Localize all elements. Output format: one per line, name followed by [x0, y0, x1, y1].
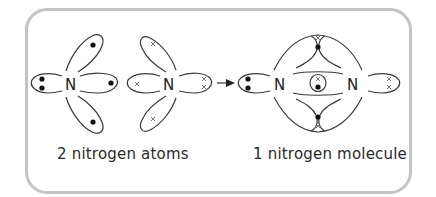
lone-pair-lobe-right	[368, 74, 400, 93]
electron-dot	[39, 76, 44, 81]
electron-cross	[151, 42, 155, 46]
electron-cross	[202, 85, 206, 89]
electron-dot	[108, 80, 113, 85]
orbital-lobe-right	[179, 73, 212, 93]
orbital-lobe-top	[66, 35, 103, 72]
electron-dot	[39, 85, 44, 90]
nitrogen-bonding-diagram: N N	[0, 0, 436, 197]
atom-symbol-n: N	[65, 76, 76, 94]
caption-product: 1 nitrogen molecule	[253, 145, 407, 163]
electron-dot	[245, 76, 250, 81]
electron-cross	[135, 82, 139, 86]
bond-orbital-outer-top	[274, 35, 362, 70]
electron-cross	[316, 36, 320, 40]
electron-dot	[315, 84, 320, 89]
electron-dot	[245, 85, 250, 90]
atom-symbol-n: N	[163, 76, 174, 94]
nitrogen-atom-crosses: N	[127, 37, 211, 132]
bond-orbital-middle-top	[293, 72, 343, 74]
orbital-lobe-left	[31, 74, 62, 93]
reaction-arrow-icon	[217, 79, 235, 87]
lone-pair-lobe-left	[238, 74, 270, 93]
electron-dot	[315, 114, 320, 119]
electron-cross	[151, 117, 155, 121]
bond-orbital-middle-bottom	[293, 93, 343, 95]
orbital-lobe-top	[140, 37, 176, 72]
atom-symbol-n: N	[274, 76, 285, 94]
nitrogen-molecule: N N	[238, 35, 399, 132]
orbital-lobe-left	[127, 74, 160, 93]
electron-dot	[315, 44, 320, 49]
electron-dot	[90, 42, 95, 47]
electron-cross	[316, 77, 320, 81]
electron-cross	[202, 77, 206, 81]
electron-cross	[387, 77, 391, 81]
orbital-lobe-bottom	[66, 96, 103, 133]
orbital-lobe-bottom	[140, 96, 176, 131]
electron-cross	[387, 85, 391, 89]
caption-reactants: 2 nitrogen atoms	[57, 145, 189, 163]
nitrogen-atom-dots: N	[31, 35, 117, 134]
atom-symbol-n: N	[347, 76, 358, 94]
electron-dot	[90, 119, 95, 124]
